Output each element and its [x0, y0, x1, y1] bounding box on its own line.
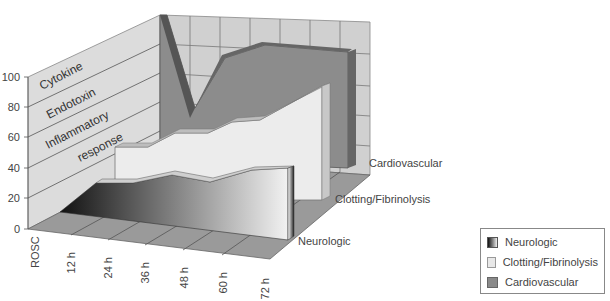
clotting-swatch-icon: [487, 257, 496, 268]
y-tick-60: 60: [8, 131, 20, 143]
y-tick-100: 100: [2, 71, 20, 83]
legend-label: Clotting/Fibrinolysis: [503, 256, 598, 268]
y-tick-20: 20: [8, 192, 20, 204]
depth-label-clotting: Clotting/Fibrinolysis: [335, 193, 431, 205]
x-label-12h: 12 h: [65, 252, 77, 273]
neurologic-swatch-icon: [487, 237, 498, 248]
legend-item-neurologic: Neurologic: [487, 232, 598, 252]
y-tick-0: 0: [14, 223, 20, 235]
legend-label: Cardiovascular: [505, 276, 578, 288]
x-label-72h: 72 h: [259, 278, 271, 299]
cardiovascular-swatch-icon: [487, 277, 498, 288]
x-label-36h: 36 h: [139, 262, 151, 283]
y-axis: 0 20 40 60 80 100: [2, 71, 28, 235]
x-label-48h: 48 h: [178, 267, 190, 288]
chart-legend: Neurologic Clotting/Fibrinolysis Cardiov…: [480, 228, 605, 294]
y-tick-80: 80: [8, 101, 20, 113]
legend-item-cardiovascular: Cardiovascular: [487, 272, 598, 292]
x-label-rosc: ROSC: [29, 236, 41, 268]
legend-item-clotting: Clotting/Fibrinolysis: [487, 252, 598, 272]
x-label-24h: 24 h: [102, 257, 114, 278]
legend-label: Neurologic: [505, 236, 558, 248]
y-tick-40: 40: [8, 162, 20, 174]
x-label-60h: 60 h: [217, 272, 229, 293]
depth-label-neurologic: Neurologic: [298, 235, 351, 247]
depth-label-cardiovascular: Cardiovascular: [369, 157, 443, 169]
